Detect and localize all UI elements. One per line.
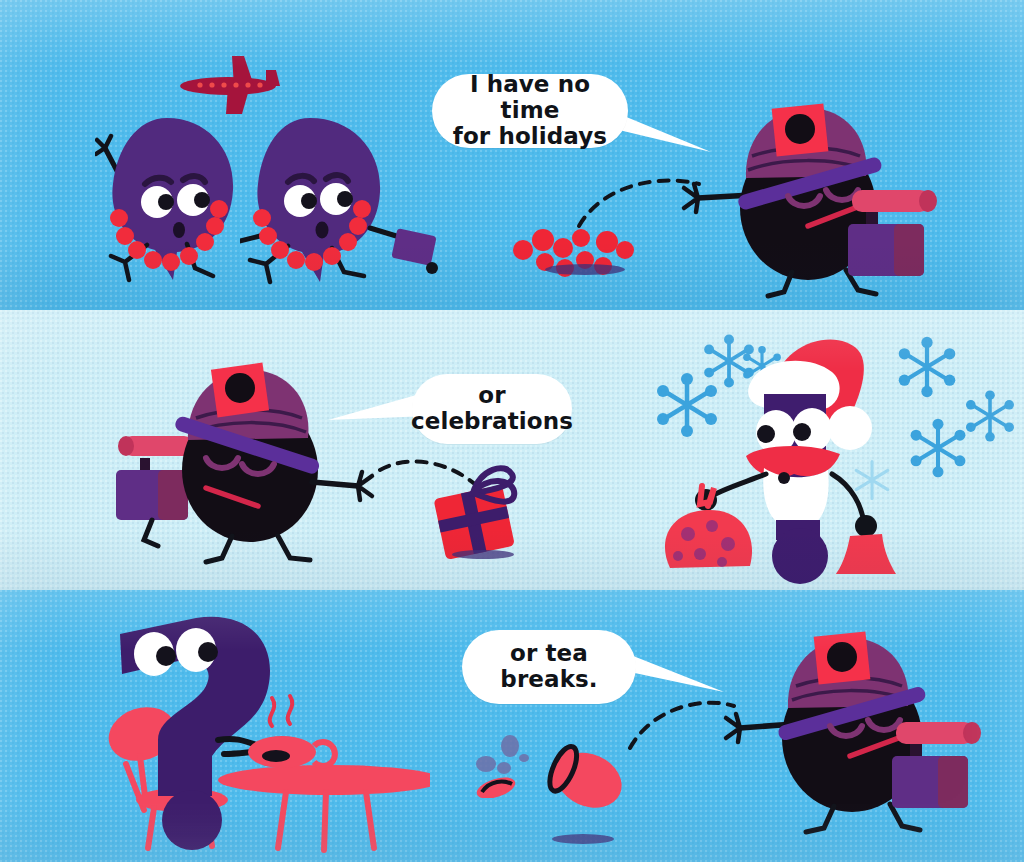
speech-bubble-celebrations: or celebrations bbox=[412, 374, 572, 444]
traveller-panel-3 bbox=[720, 612, 990, 842]
traveller-panel-1 bbox=[680, 100, 940, 300]
panel-tea-breaks: or tea breaks. bbox=[0, 590, 1024, 862]
panel-celebrations: or celebrations bbox=[0, 310, 1024, 590]
bubble-line-1: I have no time bbox=[432, 72, 628, 124]
speech-bubble-holidays: I have no time for holidays bbox=[432, 74, 628, 148]
bubble-line-2: breaks. bbox=[486, 667, 611, 693]
santa-character bbox=[660, 328, 960, 584]
illustration-page: I have no time for holidays bbox=[0, 0, 1024, 862]
thrown-teacup bbox=[538, 738, 648, 832]
bubble-line-2: for holidays bbox=[432, 124, 628, 150]
bubble-line-1: or tea bbox=[486, 641, 611, 667]
bubble-line-1: or bbox=[397, 383, 587, 409]
lei-shadow bbox=[545, 264, 625, 275]
snowflake-icon bbox=[962, 388, 1018, 444]
speech-bubble-tea-breaks: or tea breaks. bbox=[462, 630, 636, 704]
panel-holidays: I have no time for holidays bbox=[0, 0, 1024, 310]
gift-shadow bbox=[452, 550, 514, 559]
bubble-line-2: celebrations bbox=[397, 409, 587, 435]
tourist-suitcase bbox=[392, 228, 442, 280]
airplane-icon bbox=[170, 52, 290, 118]
tourist-left bbox=[95, 110, 245, 285]
question-mark-character bbox=[100, 604, 430, 854]
teacup-shadow bbox=[552, 834, 614, 844]
